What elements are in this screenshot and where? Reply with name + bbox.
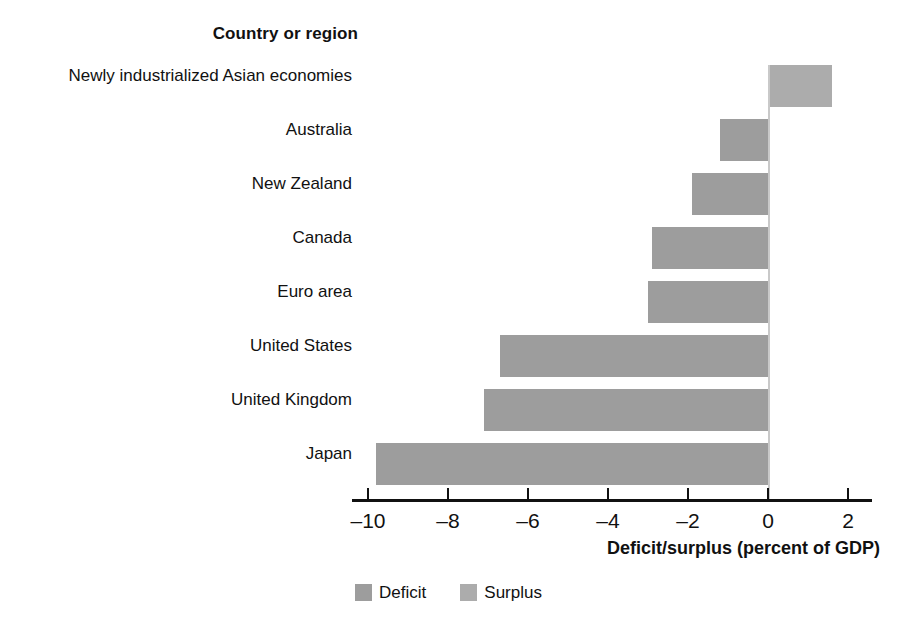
plot-area: –10–8–6–4–202 [0,0,897,625]
x-axis-tick [607,488,609,499]
bar [648,281,768,323]
x-axis-tick [687,488,689,499]
x-axis-tick-label: 0 [762,510,774,531]
legend-item[interactable]: Deficit [355,584,426,601]
bar [692,173,768,215]
bar [484,389,768,431]
x-axis-title: Deficit/surplus (percent of GDP) [0,538,880,559]
zero-line [768,65,770,499]
x-axis-tick-label: –10 [350,510,385,531]
x-axis-tick [527,488,529,499]
x-axis-line [352,499,872,502]
bar [500,335,768,377]
x-axis-tick-label: –8 [436,510,459,531]
legend-swatch-icon [355,584,372,601]
bar [768,65,832,107]
legend-label: Surplus [484,584,542,601]
bar [652,227,768,269]
legend-label: Deficit [379,584,426,601]
bar [720,119,768,161]
x-axis-tick [847,488,849,499]
legend-item[interactable]: Surplus [460,584,542,601]
x-axis-tick [367,488,369,499]
legend-swatch-icon [460,584,477,601]
x-axis-tick-label: –4 [596,510,619,531]
bar-chart: Country or region Newly industrialized A… [0,0,897,625]
x-axis-tick-label: –2 [676,510,699,531]
x-axis-tick [767,488,769,499]
x-axis-tick [447,488,449,499]
chart-legend: DeficitSurplus [0,584,897,601]
bar [376,443,768,485]
x-axis-tick-label: –6 [516,510,539,531]
x-axis-tick-label: 2 [842,510,854,531]
